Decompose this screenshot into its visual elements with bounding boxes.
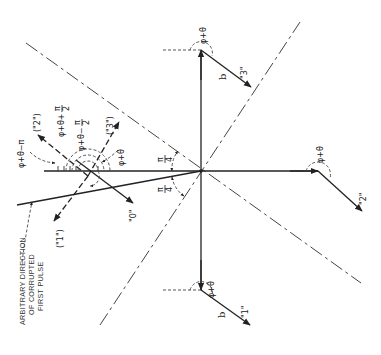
svg-text:FIRST PULSE: FIRST PULSE xyxy=(36,262,45,312)
svg-text:π: π xyxy=(73,120,82,125)
label-top-phi-theta: φ+θ xyxy=(199,27,208,44)
label-phi-theta-minus-pi2: φ+θ− π 2 xyxy=(73,119,91,151)
pi-over-4-arc-lower xyxy=(172,177,184,196)
label-cluster-phi-theta: φ+θ xyxy=(117,149,126,166)
svg-text:ARBITRARY DIRECTION: ARBITRARY DIRECTION xyxy=(18,237,27,325)
label-state-3-alt: ("3") xyxy=(106,116,115,135)
cluster-arc-lower xyxy=(90,171,99,186)
reference-line-diagonal-1 xyxy=(26,43,361,283)
svg-text:π: π xyxy=(156,187,165,192)
leader-phi-theta-minus-pi xyxy=(30,152,55,163)
svg-text:π: π xyxy=(53,106,62,111)
label-state-3: "3" xyxy=(240,67,249,79)
svg-text:φ+θ−: φ+θ− xyxy=(77,127,86,151)
label-pi-over-4-upper: π 4 xyxy=(156,155,174,163)
label-state-0: "0" xyxy=(129,210,138,222)
vector-1-alt xyxy=(54,176,88,221)
label-right-phi-theta: φ+θ xyxy=(316,146,325,163)
svg-text:φ+θ+: φ+θ+ xyxy=(57,113,66,137)
reference-line-diagonal-2 xyxy=(100,22,300,325)
annotation-corrupted-pulse: ARBITRARY DIRECTION OF CORRUPTED FIRST P… xyxy=(18,237,45,325)
label-bottom-b: b xyxy=(216,312,227,318)
svg-text:2: 2 xyxy=(82,120,91,125)
right-angle-arc xyxy=(306,162,331,178)
svg-text:4: 4 xyxy=(165,157,174,162)
svg-text:4: 4 xyxy=(165,187,174,192)
label-state-1: "1" xyxy=(241,306,250,318)
label-phi-theta-plus-pi2: φ+θ+ π 2 xyxy=(53,105,71,137)
label-top-b: b xyxy=(217,74,228,80)
svg-text:2: 2 xyxy=(62,106,71,111)
label-state-2-alt: ("2") xyxy=(33,113,42,132)
label-phi-theta-minus-pi: φ+θ−π xyxy=(17,139,26,168)
label-bottom-phi-theta: φ+θ xyxy=(207,281,216,298)
svg-text:π: π xyxy=(156,157,165,162)
label-pi-over-4-lower: π 4 xyxy=(156,185,174,193)
origin-point xyxy=(199,169,203,173)
svg-text:OF CORRUPTED: OF CORRUPTED xyxy=(27,254,36,315)
label-state-1-alt: ("1") xyxy=(56,229,65,248)
phase-vector-diagram: φ+θ b "3" φ+θ "2" φ+θ b "1" π 4 π 4 "0" … xyxy=(0,0,381,355)
label-state-2: "2" xyxy=(359,193,368,205)
vector-b-2 xyxy=(318,171,362,211)
